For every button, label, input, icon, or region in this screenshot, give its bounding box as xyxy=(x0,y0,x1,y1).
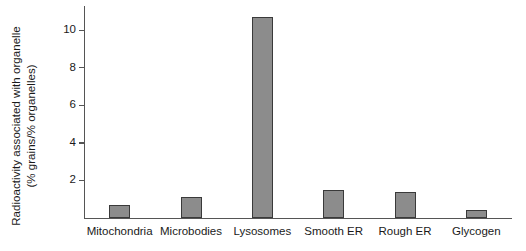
x-tick-label-lysosomes: Lysosomes xyxy=(233,224,291,238)
y-tick-label: 4 xyxy=(70,137,76,149)
plot-area: 246810 xyxy=(84,6,512,219)
x-tick-label-microbodies: Microbodies xyxy=(160,224,222,238)
y-tick-mark xyxy=(79,105,84,106)
x-tick-label-smooth-er: Smooth ER xyxy=(304,224,363,238)
y-tick-label: 2 xyxy=(70,174,76,186)
y-tick-label: 8 xyxy=(70,62,76,74)
bar-mitochondria xyxy=(109,205,130,218)
bar-smooth-er xyxy=(323,190,344,218)
y-tick-label: 10 xyxy=(63,24,76,36)
y-tick-mark xyxy=(79,180,84,181)
y-axis-title-line-2: (% grains/% organelles) xyxy=(23,26,38,225)
x-tick-label-rough-er: Rough ER xyxy=(378,224,431,238)
bar-rough-er xyxy=(395,192,416,218)
x-axis-tick-labels: MitochondriaMicrobodiesLysosomesSmooth E… xyxy=(84,224,512,244)
x-tick-label-glycogen: Glycogen xyxy=(452,224,501,238)
bar-lysosomes xyxy=(252,17,273,218)
y-axis-title-text: Radioactivity associated with organelle … xyxy=(9,26,38,225)
y-tick-mark xyxy=(79,30,84,31)
y-axis-title-line-1: Radioactivity associated with organelle xyxy=(9,26,24,225)
bar-glycogen xyxy=(466,210,487,218)
y-axis-tick-labels: 246810 xyxy=(50,6,76,219)
bar-chart-figure: Radioactivity associated with organelle … xyxy=(0,0,526,251)
y-axis-line xyxy=(84,6,85,219)
x-axis-line xyxy=(84,218,512,219)
x-tick-label-mitochondria: Mitochondria xyxy=(87,224,153,238)
y-axis-title: Radioactivity associated with organelle … xyxy=(0,0,46,251)
y-tick-label: 6 xyxy=(70,99,76,111)
y-tick-mark xyxy=(79,67,84,68)
y-tick-mark xyxy=(79,142,84,143)
bar-microbodies xyxy=(181,197,202,218)
